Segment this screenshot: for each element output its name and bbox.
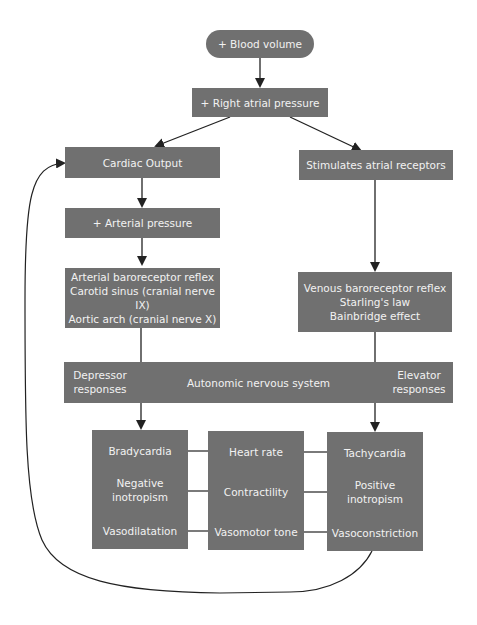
arterial-reflex-line-3: Aortic arch (cranial nerve X) bbox=[69, 312, 217, 326]
stimulates-atrial-receptors-label: Stimulates atrial receptors bbox=[306, 158, 446, 172]
contractility-label: Contractility bbox=[208, 485, 304, 499]
autonomic-nervous-system-bar: Depressor responses Autonomic nervous sy… bbox=[64, 362, 453, 403]
arterial-pressure-node: + Arterial pressure bbox=[65, 208, 220, 238]
depressor-line-1: Depressor bbox=[70, 368, 130, 382]
right-atrial-pressure-label: + Right atrial pressure bbox=[201, 96, 320, 110]
heart-rate-label: Heart rate bbox=[208, 445, 304, 459]
depressor-responses-label: Depressor responses bbox=[70, 368, 130, 396]
depressor-effects-box: Bradycardia Negativeinotropism Vasodilat… bbox=[92, 430, 188, 549]
venous-baroreceptor-node: Venous baroreceptor reflex Starling's la… bbox=[298, 272, 452, 332]
stimulates-atrial-receptors-node: Stimulates atrial receptors bbox=[299, 150, 453, 180]
bradycardia-label: Bradycardia bbox=[92, 444, 188, 458]
elevator-effects-box: Tachycardia Positiveinotropism Vasoconst… bbox=[327, 432, 423, 551]
tachycardia-label: Tachycardia bbox=[327, 446, 423, 460]
arterial-reflex-line-1: Arterial baroreceptor reflex bbox=[71, 270, 214, 284]
positive-inotropism-label: Positiveinotropism bbox=[327, 478, 423, 506]
arterial-pressure-label: + Arterial pressure bbox=[93, 216, 193, 230]
vasoconstriction-label: Vasoconstriction bbox=[327, 526, 423, 540]
venous-reflex-line-2: Starling's law bbox=[340, 295, 410, 309]
venous-reflex-line-3: Bainbridge effect bbox=[330, 309, 420, 323]
cardiovascular-parameters-box: Heart rate Contractility Vasomotor tone bbox=[208, 431, 304, 550]
elevator-responses-label: Elevator responses bbox=[389, 368, 449, 396]
ans-center-label: Autonomic nervous system bbox=[187, 376, 330, 390]
venous-reflex-line-1: Venous baroreceptor reflex bbox=[304, 281, 446, 295]
cardiac-output-label: Cardiac Output bbox=[103, 156, 183, 170]
depressor-line-2: responses bbox=[70, 382, 130, 396]
vasomotor-tone-label: Vasomotor tone bbox=[208, 525, 304, 539]
cardiac-output-node: Cardiac Output bbox=[65, 147, 220, 178]
blood-volume-node: + Blood volume bbox=[206, 30, 314, 58]
arterial-reflex-line-2: Carotid sinus (cranial nerve IX) bbox=[65, 284, 220, 312]
arterial-baroreceptor-node: Arterial baroreceptor reflex Carotid sin… bbox=[65, 268, 220, 328]
blood-volume-label: + Blood volume bbox=[218, 37, 302, 51]
elevator-line-1: Elevator bbox=[389, 368, 449, 382]
right-atrial-pressure-node: + Right atrial pressure bbox=[192, 88, 328, 117]
vasodilatation-label: Vasodilatation bbox=[92, 524, 188, 538]
elevator-line-2: responses bbox=[389, 382, 449, 396]
negative-inotropism-label: Negativeinotropism bbox=[92, 476, 188, 504]
